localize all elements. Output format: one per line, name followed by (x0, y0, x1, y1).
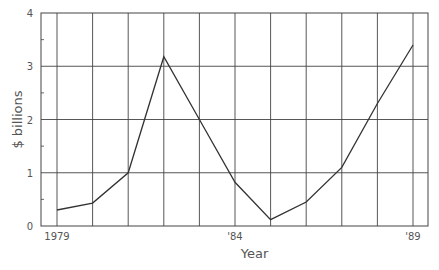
x-axis-label: Year (240, 246, 269, 261)
y-tick-label: 0 (27, 221, 33, 232)
x-tick-label: '84 (227, 231, 242, 242)
y-tick-label: 4 (27, 8, 33, 19)
line-chart: 012341979'84'89Year$ billions (0, 0, 439, 270)
x-tick-label: '89 (405, 231, 420, 242)
y-tick-label: 3 (27, 61, 33, 72)
y-tick-label: 2 (27, 115, 33, 126)
y-axis-label: $ billions (10, 90, 25, 148)
y-tick-label: 1 (27, 168, 33, 179)
x-tick-label: 1979 (44, 231, 69, 242)
